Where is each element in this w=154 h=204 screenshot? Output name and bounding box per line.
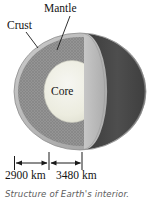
earth-structure-figure: Crust Mantle Core 2900 km 3480 km Struct… (0, 0, 154, 204)
label-core: Core (51, 86, 73, 98)
label-mantle: Mantle (44, 3, 77, 15)
figure-caption: Structure of Earth's interior. (5, 189, 129, 199)
dimension-label-core-diameter: 3480 km (56, 170, 97, 182)
dimension-label-mantle-thickness: 2900 km (5, 170, 46, 182)
label-crust: Crust (7, 20, 32, 32)
crust-leader-line (26, 32, 38, 48)
dimension-arrows (15, 152, 83, 170)
